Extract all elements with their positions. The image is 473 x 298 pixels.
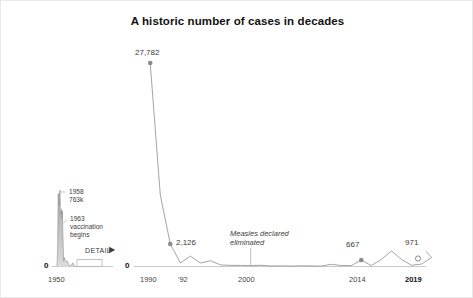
eliminated-annotation-line1: Measles declared — [230, 229, 289, 238]
inset-leader-1963 — [63, 220, 67, 224]
axis-tick-1990: 1990 — [140, 275, 157, 284]
axis-tick-2014: 2014 — [349, 275, 366, 284]
inset-annotation-1958-value: 763k — [69, 196, 84, 204]
inset-annotation-1963-year: 1963 — [70, 215, 103, 223]
value-label-2014: 667 — [346, 240, 359, 249]
inset-annotation-1958: 1958 763k — [69, 188, 84, 205]
value-label-2019: 971 — [405, 238, 418, 247]
detail-arrow-icon[interactable]: ▶ — [109, 246, 115, 254]
inset-annotation-1958-year: 1958 — [69, 188, 84, 196]
inset-zero-label: 0 — [44, 261, 48, 270]
eliminated-annotation: Measles declared eliminated — [230, 229, 289, 248]
axis-tick-2019: 2019 — [405, 275, 422, 284]
inset-tick-1950: 1950 — [48, 275, 65, 284]
data-point-2014 — [359, 258, 364, 263]
detail-label[interactable]: DETAIL — [85, 247, 111, 254]
main-line-path — [150, 63, 431, 266]
axis-tick-2000: 2000 — [238, 275, 255, 284]
main-zero-label: 0 — [125, 261, 129, 270]
axis-tick-1992: '92 — [178, 275, 188, 284]
data-point-1992 — [168, 242, 173, 247]
inset-annotation-1963-line2: vaccination — [70, 223, 103, 231]
data-point-2019 — [415, 256, 420, 261]
value-label-1990: 27,782 — [135, 48, 159, 57]
chart-figure: A historic number of cases in decades — [0, 0, 473, 298]
inset-annotation-1963: 1963 vaccination begins — [70, 215, 103, 240]
inset-annotation-1963-line3: begins — [70, 231, 103, 239]
eliminated-annotation-line2: eliminated — [230, 238, 289, 247]
data-point-1990 — [148, 61, 153, 66]
inset-chart-graphic — [1, 1, 473, 298]
detail-region-bracket — [77, 260, 102, 267]
value-label-1992: 2,126 — [176, 238, 196, 247]
